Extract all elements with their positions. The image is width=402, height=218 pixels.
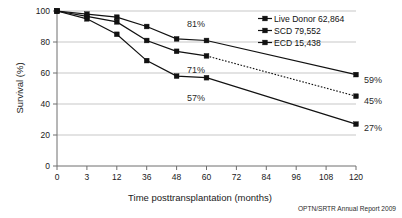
- marker-live-donor-0: [55, 9, 60, 14]
- y-tick-label-0: 0: [45, 161, 50, 171]
- marker-scd-12: [114, 20, 119, 25]
- marker-ecd-60: [204, 75, 209, 80]
- y-tick-label-80: 80: [41, 37, 51, 47]
- y-tick-label-100: 100: [36, 6, 50, 16]
- survival-chart-figure: 100 80 60 40 20 0 0 3 12 36 48: [0, 0, 402, 218]
- marker-scd-120: [354, 94, 359, 99]
- marker-ecd-36: [144, 58, 149, 63]
- y-tick-label-60: 60: [41, 68, 51, 78]
- marker-live-donor-48: [174, 37, 179, 42]
- x-tick-label-48: 48: [172, 172, 182, 182]
- marker-live-donor-60: [204, 38, 209, 43]
- marker-ecd-48: [174, 74, 179, 79]
- endpoint-label-scd: 45%: [364, 96, 382, 106]
- legend-swatch-marker-live-donor: [263, 16, 268, 21]
- legend-swatch-marker-scd: [263, 28, 268, 33]
- source-credit: OPTN/SRTR Annual Report 2009: [298, 205, 396, 213]
- x-tick-label-12: 12: [112, 172, 122, 182]
- x-tick-label-96: 96: [291, 172, 301, 182]
- x-tick-label-36: 36: [142, 172, 152, 182]
- x-tick-label-120: 120: [349, 172, 363, 182]
- x-tick-label-0: 0: [55, 172, 60, 182]
- marker-scd-48: [174, 49, 179, 54]
- chart-background: [0, 0, 402, 218]
- marker-live-donor-3: [85, 12, 90, 17]
- marker-scd-60: [204, 54, 209, 59]
- annotation-live-donor-81: 81%: [187, 19, 205, 29]
- endpoint-label-live-donor: 59%: [364, 75, 382, 85]
- legend-label-ecd: ECD 15,438: [274, 38, 321, 48]
- y-axis-title: Survival (%): [14, 62, 25, 113]
- marker-live-donor-120: [354, 72, 359, 77]
- annotation-ecd-57: 57%: [187, 93, 205, 103]
- x-tick-label-72: 72: [232, 172, 242, 182]
- legend-swatch-marker-ecd: [263, 40, 268, 45]
- legend-label-live-donor: Live Donor 62,864: [274, 14, 344, 24]
- y-tick-label-20: 20: [41, 130, 51, 140]
- y-tick-label-40: 40: [41, 99, 51, 109]
- marker-ecd-12: [114, 32, 119, 37]
- x-tick-label-3: 3: [85, 172, 90, 182]
- endpoint-label-ecd: 27%: [364, 123, 382, 133]
- chart-canvas: 100 80 60 40 20 0 0 3 12 36 48: [0, 0, 402, 218]
- x-axis-title: Time posttransplantation (months): [128, 192, 272, 203]
- x-tick-label-108: 108: [319, 172, 333, 182]
- marker-live-donor-12: [114, 15, 119, 20]
- annotation-scd-71: 71%: [187, 65, 205, 75]
- marker-live-donor-36: [144, 24, 149, 29]
- legend-label-scd: SCD 79,552: [274, 26, 321, 36]
- x-tick-label-84: 84: [262, 172, 272, 182]
- marker-ecd-120: [354, 122, 359, 127]
- marker-scd-36: [144, 38, 149, 43]
- x-tick-label-60: 60: [202, 172, 212, 182]
